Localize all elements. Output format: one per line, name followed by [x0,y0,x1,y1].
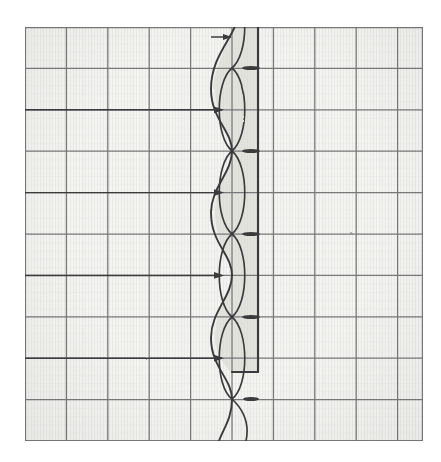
figure-content [25,27,423,441]
cusp-marker-1 [242,149,260,153]
cusp-marker-2 [242,232,260,236]
cusp-marker-3 [242,315,260,319]
cusp-marker-4 [243,397,259,401]
figure-svg [25,27,423,441]
diagram-canvas [0,0,441,462]
cusp-marker-0 [242,66,260,70]
graph-paper-figure [25,27,423,441]
